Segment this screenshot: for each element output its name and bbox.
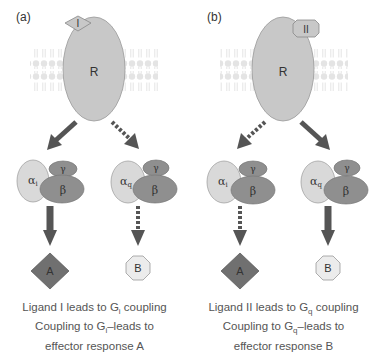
effector-a-label: A [46,265,54,277]
effector-b: B [316,256,340,280]
gi-protein: αi γ β [207,161,275,204]
gq-protein: αq γ β [301,160,368,204]
dashed-arrow-to-effector-b [131,206,145,246]
receptor-label: R [90,65,99,79]
ligand-ii: II [293,20,319,37]
ligand-label: I [77,18,80,29]
gamma-label: γ [153,163,158,173]
caption-line-3: effector response B [189,339,378,354]
gamma-label: γ [344,163,349,173]
panel-b: (b) R II αi γ β [207,10,368,289]
effector-a: A [31,253,69,289]
effector-b-label: B [134,262,141,274]
caption-line-2: Coupling to Gi–leads to [0,319,189,338]
caption-line-1: Ligand I leads to Gi coupling [0,300,189,319]
receptor-label: R [279,65,288,79]
caption-line-1: Ligand II leads to Gq coupling [189,300,378,319]
effector-a-label: A [236,265,244,277]
solid-arrow-to-gi [47,122,76,150]
gi-protein: αi γ β [17,160,84,203]
dashed-arrow-to-gq [112,122,139,149]
caption-line-2: Coupling to Gq–leads to [189,319,378,338]
dashed-arrow-to-gi [237,122,265,149]
beta-label: β [60,184,66,197]
panel-a-caption: Ligand I leads to Gi coupling Coupling t… [0,300,189,354]
beta-label: β [152,184,158,197]
ligand-label: II [303,24,309,35]
effector-b-label: B [324,262,331,274]
solid-arrow-to-effector-a [43,206,57,246]
dashed-arrow-to-effector-a [233,206,247,246]
solid-arrow-to-gq [301,122,330,150]
gq-protein: αq γ β [111,160,177,203]
panel-b-caption: Ligand II leads to Gq coupling Coupling … [189,300,378,354]
panel-a: (a) R I αi γ β [16,10,177,289]
effector-a: A [221,253,259,289]
beta-label: β [343,185,349,198]
beta-label: β [250,185,256,198]
panel-a-tag: (a) [16,10,31,24]
gamma-label: γ [60,164,65,174]
solid-arrow-to-effector-b [321,206,335,246]
panel-b-tag: (b) [207,10,222,24]
caption-line-3: effector response A [0,339,189,354]
effector-b: B [126,256,150,280]
gamma-label: γ [250,164,255,174]
